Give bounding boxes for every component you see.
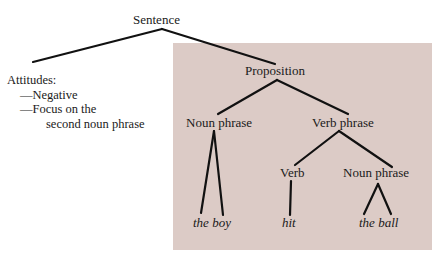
leaf-hit: hit <box>282 216 296 230</box>
node-verb: Verb <box>280 166 305 180</box>
leaf-the-boy: the boy <box>193 216 231 230</box>
attitude-item: second noun phrase <box>7 117 145 132</box>
node-sentence: Sentence <box>133 13 180 27</box>
leaf-the-ball: the ball <box>359 216 398 230</box>
attitude-item: —Focus on the <box>7 102 145 117</box>
attitudes-heading: Attitudes: <box>7 73 145 88</box>
node-noun-phrase: Noun phrase <box>186 116 252 130</box>
node-verb-phrase: Verb phrase <box>312 116 374 130</box>
node-proposition: Proposition <box>245 64 305 78</box>
attitude-item: —Negative <box>7 88 145 103</box>
node-noun-phrase-2: Noun phrase <box>343 166 409 180</box>
attitudes-block: Attitudes: —Negative —Focus on the secon… <box>7 73 145 131</box>
